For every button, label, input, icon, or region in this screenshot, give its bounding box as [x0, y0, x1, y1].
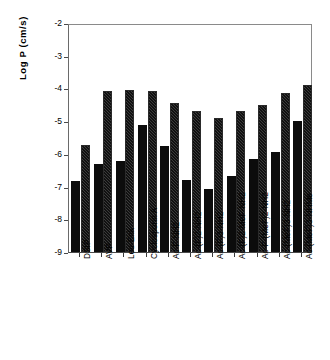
y-tick-label: -4	[54, 83, 62, 94]
bar	[116, 161, 125, 252]
x-axis-category-label: Ac-(F)3-NH2	[216, 212, 226, 260]
y-tick-label: -3	[54, 51, 62, 62]
x-axis-tick	[234, 253, 235, 257]
y-axis-tick: -8	[0, 220, 68, 221]
x-axis-category-label: DSIP	[83, 239, 93, 259]
bar	[204, 189, 213, 252]
x-axis-tick	[190, 253, 191, 257]
y-tick-label: -2	[54, 18, 62, 29]
x-axis-tick	[279, 253, 280, 257]
x-axis-category-label: AVP	[105, 243, 115, 259]
y-tick-label: -6	[54, 149, 62, 160]
y-tick-label: -9	[54, 247, 62, 258]
plot-area	[68, 24, 312, 253]
bar	[293, 121, 302, 252]
bar	[81, 145, 90, 252]
x-axis-category-label: Ac-F-(MeF)2-NH2	[261, 192, 271, 259]
y-tick-label: -5	[54, 116, 62, 127]
x-axis-category-label: Ac-(MeF)3-NHMe	[305, 193, 315, 259]
y-axis-tick: -6	[0, 155, 68, 156]
x-axis-tick	[212, 253, 213, 257]
y-tick-label: -7	[54, 182, 62, 193]
bar	[271, 152, 280, 252]
y-axis-tick: -3	[0, 57, 68, 58]
bar	[103, 91, 112, 252]
bar	[227, 176, 236, 252]
y-axis-tick: -4	[0, 89, 68, 90]
x-axis-tick	[101, 253, 102, 257]
bar	[249, 159, 258, 252]
y-axis-tick: -7	[0, 188, 68, 189]
bar	[160, 146, 169, 252]
y-axis-tick: -5	[0, 122, 68, 123]
bar	[182, 180, 191, 252]
y-tick-mark	[64, 253, 68, 254]
y-axis-title: Log P (cm/s)	[14, 0, 32, 103]
bar-group	[69, 25, 311, 252]
x-axis-category-label: Ac-(F)2-NH2	[194, 212, 204, 260]
bar	[94, 164, 103, 252]
x-axis-tick	[123, 253, 124, 257]
x-axis-category-label: Cyclosporin A	[150, 208, 160, 259]
x-axis-tick	[257, 253, 258, 257]
x-axis-category-label: Ac-(F)2-MeF-NH2	[238, 192, 248, 259]
x-axis-tick	[146, 253, 147, 257]
bar	[71, 181, 80, 252]
x-axis-category-label: Leu-Enk	[127, 228, 137, 259]
bar	[138, 125, 147, 252]
y-axis-tick: -2	[0, 24, 68, 25]
x-axis-tick	[168, 253, 169, 257]
x-axis-category-label: Ac-F-NH2	[172, 222, 182, 259]
y-axis-tick: -9	[0, 253, 68, 254]
x-axis-tick	[301, 253, 302, 257]
chart-figure: Log P (cm/s) -2-3-4-5-6-7-8-9 DSIPAVPLeu…	[0, 0, 330, 360]
x-axis-category-label: Ac-(MeF)3-NH2	[283, 200, 293, 259]
x-axis-tick	[79, 253, 80, 257]
y-tick-label: -8	[54, 214, 62, 225]
